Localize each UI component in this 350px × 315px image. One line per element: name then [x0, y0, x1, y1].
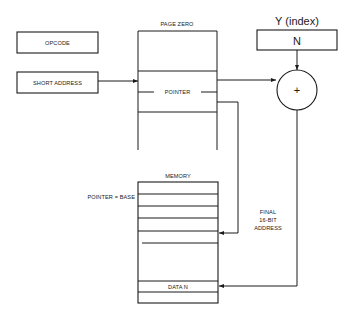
- memory-block: DATA N: [138, 182, 218, 303]
- short-address-label: SHORT ADDRESS: [33, 80, 82, 86]
- adder-circle: +: [277, 70, 317, 110]
- plus-icon: +: [294, 84, 300, 96]
- svg-text:ADDRESS: ADDRESS: [254, 225, 282, 231]
- opcode-label: OPCODE: [45, 40, 70, 46]
- short-address-box: SHORT ADDRESS: [17, 72, 98, 93]
- index-register-box: N: [257, 30, 337, 50]
- page-zero-block: POINTER: [138, 31, 217, 150]
- addressing-diagram: OPCODE SHORT ADDRESS PAGE ZERO POINTER Y…: [0, 0, 350, 315]
- page-zero-title: PAGE ZERO: [160, 21, 194, 27]
- pointer-base-label: POINTER = BASE: [87, 194, 135, 200]
- data-n-label: DATA N: [168, 284, 188, 290]
- svg-text:FINAL: FINAL: [260, 209, 276, 215]
- index-register-title: Y (index): [275, 15, 319, 27]
- final-address-label: FINAL 16-BIT ADDRESS: [254, 209, 282, 231]
- svg-text:16-BIT: 16-BIT: [259, 217, 277, 223]
- opcode-box: OPCODE: [17, 32, 98, 53]
- index-register-value: N: [293, 35, 301, 47]
- pointer-label: POINTER: [165, 89, 191, 95]
- memory-title: MEMORY: [165, 173, 191, 179]
- pointer-to-base-arrow: [217, 102, 238, 233]
- final-address-arrow: [219, 110, 297, 286]
